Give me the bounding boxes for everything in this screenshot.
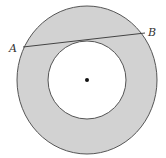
center-point (85, 78, 89, 82)
label-point-a: A (8, 42, 17, 55)
annulus-diagram: A B (0, 0, 166, 158)
label-point-b: B (147, 26, 156, 39)
